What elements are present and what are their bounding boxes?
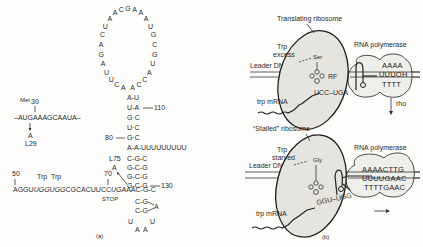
loop-base: U: [104, 69, 109, 76]
loop-base: G: [99, 51, 104, 58]
condition-label: Trp: [277, 146, 287, 154]
l29-arrowhead: [29, 128, 32, 131]
loop-base: A: [130, 84, 135, 91]
mutation-base-l75: A: [112, 164, 117, 171]
panel-a-rna-structure: ACUUAGACUAACGAAAUGCGUACCA A-U U-A 110 G·…: [12, 5, 187, 240]
sequence-line: UUUOH: [379, 70, 408, 79]
release-factor-label: RF: [328, 73, 337, 80]
lower-stem: C-G-C G-C-G G-C-G G-C-G 130 L75 A: [109, 155, 173, 189]
loop-base: C: [100, 31, 105, 38]
trp-attenuation-figure: ACUUAGACUAACGAAAUGCGUACCA A-U U-A 110 G·…: [0, 0, 423, 247]
stem-triplet: C-G-C: [127, 155, 147, 162]
panel-b-attenuation-model: Leader DNA Translating ribosome Trp exce…: [245, 15, 420, 245]
loop-base: A: [99, 41, 104, 48]
panel-b-caption: (b): [322, 234, 329, 240]
mutation-label-l29: L29: [25, 140, 37, 147]
ribosome-label: “Stalled” ribosome: [253, 125, 310, 132]
translating-ribosome: [268, 23, 358, 136]
rho-arrowhead: [389, 111, 393, 115]
loop-base: C: [114, 81, 119, 88]
position-label-110: 110: [154, 104, 165, 111]
loop-base: C: [142, 76, 147, 83]
sequence-line: AAAA: [382, 61, 403, 70]
stem-triplet: G-C-G: [127, 164, 148, 171]
trp-codon-label: Trp: [51, 173, 61, 181]
sequence-line: AAAACTTG: [362, 165, 404, 174]
loop-base: A: [147, 69, 152, 76]
hairpin-base: A: [143, 226, 148, 233]
loop-base: A: [132, 6, 137, 13]
transcription-arrowhead: [386, 209, 390, 213]
amino-acid-label: Ser: [313, 54, 322, 60]
loop-base: A: [138, 9, 143, 16]
loop-base: A: [113, 9, 118, 16]
terminator-loop: ACUUAGACUAACGAAAUGCGUACCA: [99, 5, 158, 91]
mrna-label: trp mRNA: [256, 210, 287, 218]
start-sequence: –AUGAAAGCAAUA–: [14, 114, 81, 121]
codons: UCC–UGA: [314, 89, 349, 96]
amino-acid-label: Gly: [313, 157, 322, 163]
trp-excess-scenario: Leader DNA Translating ribosome Trp exce…: [250, 15, 420, 137]
loop-base: A: [107, 15, 112, 22]
loop-base: A: [121, 84, 126, 91]
trp-starved-scenario: Leader DNA “Stalled” ribosome Trp starve…: [245, 125, 420, 245]
loop-base: U: [148, 23, 153, 30]
stop-codon-label: STOP: [102, 196, 118, 202]
mutation-label-l75: L75: [109, 155, 121, 162]
mutation-base-l29: A: [28, 132, 33, 139]
stem-pair: G·C: [127, 134, 140, 141]
hairpin-base: A: [154, 203, 159, 210]
loop-base: U: [150, 60, 155, 67]
sequence-line: TTTT: [382, 80, 401, 89]
stem-pair: A-U: [127, 94, 139, 101]
polymerase-label: RNA polymerase: [354, 144, 407, 152]
condition-label: Trp: [277, 43, 287, 51]
hairpin-base: A: [135, 226, 140, 233]
start-codon-region: Met 30 –AUGAAAGCAAUA– A L29: [14, 97, 81, 147]
stem-pair: U-A: [127, 104, 139, 111]
position-label-50: 50: [12, 170, 20, 177]
condition-label: starved: [272, 154, 295, 161]
hairpin-base: U: [150, 218, 155, 225]
position-label-30: 30: [31, 98, 39, 105]
leader-seq-junction: AGGUUGGUGGCGCACUUCCUGAAAC-G-C: [13, 186, 156, 193]
loop-base: C: [152, 41, 157, 48]
loop-base: U: [109, 76, 114, 83]
loop-base: G: [125, 5, 130, 12]
loop-base: A: [101, 60, 106, 67]
loop-base: G: [152, 51, 157, 58]
hairpin-pair: C-G: [135, 198, 148, 205]
position-label-70: 70: [104, 170, 112, 177]
stem-pair: U·C: [127, 124, 139, 131]
position-label-130: 130: [161, 182, 173, 189]
mrna-label: trp mRNA: [257, 98, 288, 106]
ribosome-label: Translating ribosome: [277, 15, 342, 23]
sequence-line: UUUUGAAC: [362, 174, 407, 183]
sequence-line: TTTTGAAC: [364, 183, 406, 192]
loop-base: U: [103, 23, 108, 30]
loop-base: C: [119, 6, 124, 13]
panel-a-caption: (a): [96, 233, 103, 239]
position-label-80: 80: [105, 134, 113, 141]
loop-base: G: [151, 31, 156, 38]
condition-label: excess: [273, 51, 295, 58]
stem-pair: G·C: [127, 114, 140, 121]
loop-base: A: [144, 15, 149, 22]
polymerase-label: RNA polymerase: [354, 41, 407, 49]
met-label: Met: [20, 97, 30, 103]
hairpin-pair: C-G: [135, 207, 148, 214]
trp-codon-label: Trp: [37, 173, 47, 181]
upper-stem: A-U U-A 110 G·C U·C G·C 80 A-A-UUUUUUUUU: [105, 94, 187, 151]
loop-base: C: [137, 81, 142, 88]
lower-hairpin: C-G C-G A U U A A: [128, 198, 159, 233]
stem-triplet: G-C-G: [127, 173, 148, 180]
rho-label: rho: [396, 100, 406, 107]
hairpin-base: U: [128, 218, 133, 225]
terminator-u-tail: A-A-UUUUUUUUU: [127, 144, 187, 151]
